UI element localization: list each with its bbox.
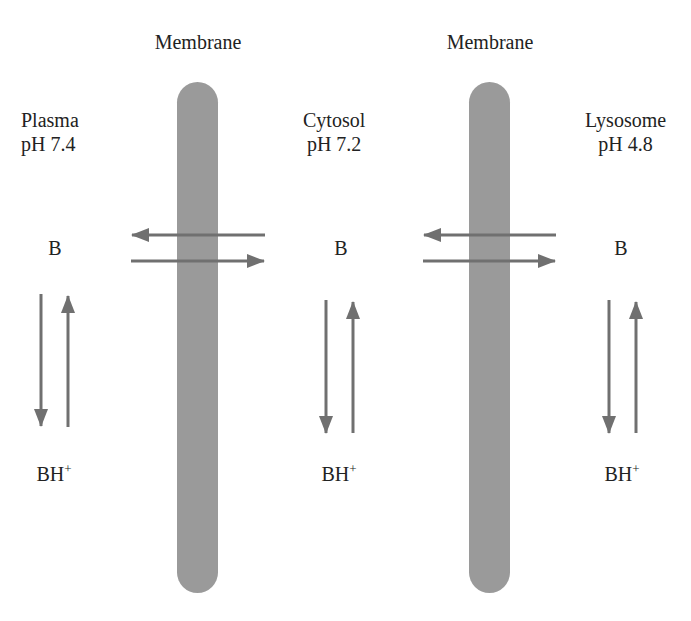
arrows-layer [0, 0, 691, 621]
